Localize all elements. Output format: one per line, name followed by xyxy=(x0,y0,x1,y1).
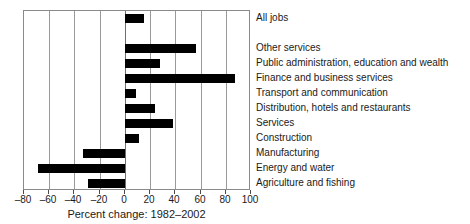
x-tick-label: 100 xyxy=(230,194,270,206)
category-label: Energy and water xyxy=(256,162,334,174)
bar xyxy=(125,119,173,128)
x-axis-title: Percent change: 1982–2002 xyxy=(23,208,250,221)
bar-chart-figure: –80–60–40–20020406080100 Percent change:… xyxy=(0,0,470,224)
bar xyxy=(125,134,139,143)
gridline xyxy=(49,11,50,189)
category-label: Transport and communication xyxy=(256,87,388,99)
plot-area xyxy=(23,10,250,190)
bar xyxy=(125,59,160,68)
category-label: Distribution, hotels and restaurants xyxy=(256,102,411,114)
category-label: Services xyxy=(256,117,294,129)
bar xyxy=(125,14,144,23)
zero-axis-line xyxy=(125,11,126,189)
gridline xyxy=(74,11,75,189)
gridline xyxy=(201,11,202,189)
category-label: Agriculture and fishing xyxy=(256,177,355,189)
bar xyxy=(83,149,125,158)
bar xyxy=(38,164,125,173)
bar xyxy=(125,74,235,83)
category-label: All jobs xyxy=(256,12,288,24)
category-labels: All jobsOther servicesPublic administrat… xyxy=(256,10,470,190)
gridline xyxy=(226,11,227,189)
gridline xyxy=(100,11,101,189)
category-label: Public administration, education and wea… xyxy=(256,57,448,69)
gridline xyxy=(150,11,151,189)
gridline xyxy=(175,11,176,189)
category-label: Construction xyxy=(256,132,312,144)
bar xyxy=(88,179,125,188)
bar xyxy=(125,104,155,113)
category-label: Finance and business services xyxy=(256,72,393,84)
bar xyxy=(125,44,196,53)
category-label: Manufacturing xyxy=(256,147,319,159)
bar xyxy=(125,89,136,98)
category-label: Other services xyxy=(256,42,320,54)
